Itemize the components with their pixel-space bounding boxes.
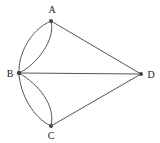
edge-b-c-inner xyxy=(19,73,52,126)
graph-diagram: A B C D xyxy=(0,0,160,143)
node-a xyxy=(49,19,53,23)
node-c xyxy=(49,124,53,128)
edge-c-d xyxy=(51,74,141,126)
graph-canvas: A B C D xyxy=(0,0,160,143)
label-b: B xyxy=(7,68,14,79)
label-a: A xyxy=(48,4,56,15)
node-d xyxy=(139,72,143,76)
label-d: D xyxy=(147,69,154,80)
edge-a-d xyxy=(51,21,141,74)
node-b xyxy=(17,71,21,75)
label-c: C xyxy=(48,130,55,141)
edge-a-b-inner xyxy=(19,21,52,73)
edge-b-d xyxy=(19,73,141,74)
